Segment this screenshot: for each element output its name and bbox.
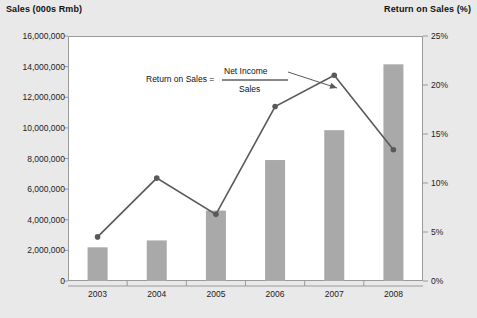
bar-series-sales [88, 64, 404, 281]
chart-container: Sales (000s Rmb) Return on Sales (%) 02,… [0, 0, 477, 318]
data-point-marker [331, 72, 337, 78]
trend-line [98, 75, 394, 237]
x-axis-tick-label: 2006 [266, 289, 285, 299]
data-point-marker [272, 104, 278, 110]
left-axis-tick-label: 14,000,000 [22, 62, 65, 72]
right-axis-tick-label: 25% [431, 31, 448, 41]
annotation-line [288, 72, 337, 88]
x-axis-tick-label: 2007 [325, 289, 344, 299]
annotation-arrowhead [329, 83, 337, 89]
left-axis-tick-label: 10,000,000 [22, 123, 65, 133]
right-axis-tick-label: 5% [431, 227, 443, 237]
bar [88, 247, 108, 281]
right-axis-tick-label: 0% [431, 276, 443, 286]
x-axis-tick-label: 2004 [147, 289, 166, 299]
bar [265, 160, 285, 281]
right-axis-tick-label: 20% [431, 80, 448, 90]
data-point-marker [95, 234, 101, 240]
left-axis-tick-label: 16,000,000 [22, 31, 65, 41]
annotation-denominator: Sales [239, 84, 260, 94]
data-point-marker [213, 212, 219, 218]
x-axis-tick-label: 2008 [384, 289, 403, 299]
bar [206, 211, 226, 281]
right-axis-ticks [423, 36, 428, 281]
bar [147, 240, 167, 281]
line-series-return-on-sales [98, 75, 394, 237]
right-axis-tick-label: 10% [431, 178, 448, 188]
bar [324, 130, 344, 281]
left-axis-tick-label: 8,000,000 [27, 154, 65, 164]
bar [383, 64, 403, 281]
left-axis-tick-label: 2,000,000 [27, 245, 65, 255]
x-axis-ticks [68, 281, 423, 286]
left-axis-tick-label: 6,000,000 [27, 184, 65, 194]
left-axis-tick-label: 0 [60, 276, 65, 286]
x-axis-tick-label: 2003 [88, 289, 107, 299]
chart-graphics [0, 0, 477, 318]
right-axis-tick-label: 15% [431, 129, 448, 139]
annotation-numerator: Net Income [224, 66, 267, 76]
left-axis-tick-label: 12,000,000 [22, 92, 65, 102]
data-point-marker [154, 175, 160, 181]
x-axis-tick-label: 2005 [206, 289, 225, 299]
annotation-label: Return on Sales = [146, 74, 214, 84]
left-axis-tick-label: 4,000,000 [27, 215, 65, 225]
data-point-marker [391, 147, 397, 153]
